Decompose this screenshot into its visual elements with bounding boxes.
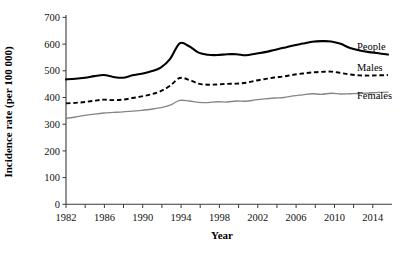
x-tick-label: 1998 bbox=[209, 212, 230, 223]
x-tick-label: 1990 bbox=[132, 212, 153, 223]
y-tick-label: 0 bbox=[55, 199, 60, 210]
x-tick-label: 2006 bbox=[286, 212, 307, 223]
y-tick-label: 600 bbox=[44, 39, 60, 50]
series-label-females: Females bbox=[357, 90, 392, 101]
y-tick-label: 500 bbox=[44, 65, 60, 76]
y-axis-tick-labels: 700 600 500 400 300 200 100 0 bbox=[44, 12, 60, 210]
y-tick-label: 200 bbox=[44, 146, 60, 157]
x-axis-tick-marks bbox=[66, 204, 373, 208]
series-label-people: People bbox=[357, 41, 386, 52]
chart-canvas: Incidence rate (per 100 000) 700 600 500… bbox=[0, 0, 405, 255]
x-tick-label: 2014 bbox=[362, 212, 384, 223]
x-tick-label: 2010 bbox=[324, 212, 345, 223]
x-tick-label: 2002 bbox=[247, 212, 268, 223]
y-tick-label: 100 bbox=[44, 172, 60, 183]
x-tick-label: 1982 bbox=[56, 212, 77, 223]
x-tick-label: 1994 bbox=[171, 212, 193, 223]
x-tick-label: 1986 bbox=[94, 212, 115, 223]
series-label-males: Males bbox=[357, 62, 383, 73]
y-tick-label: 300 bbox=[44, 119, 60, 130]
incidence-rate-line-chart: Incidence rate (per 100 000) 700 600 500… bbox=[0, 0, 405, 255]
y-tick-label: 400 bbox=[44, 92, 60, 103]
y-tick-label: 700 bbox=[44, 12, 60, 23]
y-axis-title: Incidence rate (per 100 000) bbox=[2, 46, 15, 177]
x-axis-title: Year bbox=[211, 229, 233, 241]
x-axis-tick-labels: 1982 1986 1990 1994 1998 2002 2006 2010 … bbox=[56, 212, 385, 223]
series-line-females bbox=[66, 92, 388, 118]
